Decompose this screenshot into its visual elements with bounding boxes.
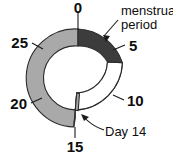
- tick-label-10: 10: [127, 92, 144, 109]
- tick-label-20: 20: [10, 95, 27, 112]
- day14-callout-arrowhead: [81, 114, 89, 121]
- slice-follicular-white-body: [75, 62, 122, 110]
- cycle-chart-svg: 0 5 10 15 20 25 menstrual period Day 14: [0, 0, 173, 155]
- tick-label-15: 15: [67, 138, 84, 155]
- tick-label-25: 25: [11, 34, 28, 51]
- menstrual-cycle-donut-chart: 0 5 10 15 20 25 menstrual period Day 14: [0, 0, 173, 155]
- tick-label-5: 5: [129, 37, 137, 54]
- menstrual-period-label-line2: period: [121, 17, 157, 32]
- menstrual-period-label-line1: menstrual: [121, 3, 173, 18]
- tick-label-0: 0: [74, 0, 82, 16]
- menstrual-callout-leader: [104, 20, 118, 36]
- day14-label: Day 14: [105, 124, 146, 139]
- tick-line-10: [113, 95, 124, 100]
- slice-menstrual-dark: [78, 29, 122, 63]
